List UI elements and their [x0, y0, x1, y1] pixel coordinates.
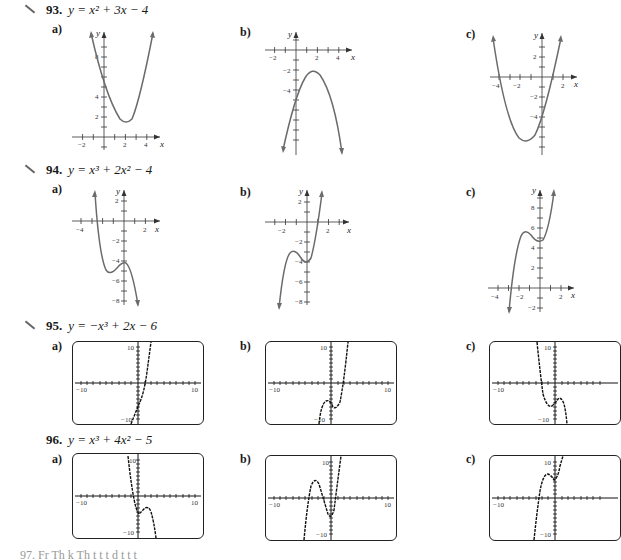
ymin-label: −10 [538, 416, 549, 424]
option-label: c) [466, 339, 475, 354]
calculator-screen-95a: −10 10 10 −10 [72, 341, 204, 425]
svg-text:8: 8 [531, 204, 535, 212]
option-label: b) [240, 339, 251, 354]
svg-text:y: y [531, 185, 536, 195]
problem-number: 95. [46, 318, 62, 333]
problem-equation: y = −x³ + 2x − 6 [68, 318, 157, 333]
problem-number: 96. [46, 432, 62, 447]
xmin-label: −10 [76, 499, 87, 507]
ymax-label: 10 [322, 459, 330, 467]
calculator-screen-96c: −10 10 −10 [489, 455, 621, 541]
xmin-label: −10 [76, 386, 87, 394]
svg-text:2: 2 [531, 264, 535, 272]
ymax-label: 10 [544, 459, 552, 467]
option-label: c) [466, 452, 475, 467]
problem-96-header: 96.y = x³ + 4x² − 5 [24, 432, 152, 448]
xmin-label: −10 [493, 501, 504, 509]
ymax-label: 10 [320, 344, 328, 352]
calculator-screen-96a: −10 10 10 −10 [72, 453, 204, 539]
xmax-label: 10 [191, 499, 199, 507]
problem-95-header: 95.y = −x³ + 2x − 6 [24, 318, 157, 334]
calculator-screen-95c: −10 10 −10 [489, 341, 621, 425]
xmin-label: −10 [493, 386, 504, 394]
calculator-screen-96b: −10 10 10 −10 [265, 455, 397, 541]
ymax-label: 10 [129, 457, 137, 465]
xmin-label: −10 [269, 501, 280, 509]
ymin-label: −10 [123, 529, 134, 537]
ymin-label: −10 [540, 531, 551, 539]
svg-text:−4: −4 [491, 293, 499, 301]
svg-text:6: 6 [531, 224, 535, 232]
option-label: a) [52, 452, 62, 467]
svg-text:x: x [570, 290, 575, 300]
ymax-label: 10 [127, 344, 135, 352]
svg-text:4: 4 [531, 244, 535, 252]
calculator-screen-95b: −10 10 10 −10 [265, 341, 397, 425]
xmax-label: 10 [191, 386, 199, 394]
option-label: b) [240, 452, 251, 467]
option-label: a) [52, 339, 62, 354]
svg-text:−2: −2 [528, 304, 536, 312]
svg-text:−2: −2 [516, 293, 524, 301]
xmin-label: −10 [269, 386, 280, 394]
pencil-icon [25, 320, 35, 329]
svg-text:2: 2 [559, 293, 563, 301]
ymin-label: −10 [316, 531, 327, 539]
xmax-label: 10 [384, 386, 392, 394]
ymax-label: 10 [544, 344, 552, 352]
problem-equation: y = x³ + 4x² − 5 [68, 432, 152, 447]
xmax-label: 10 [384, 501, 392, 509]
next-problem-partial: 97. Fr Th k Th t t t d t t t [20, 548, 137, 560]
